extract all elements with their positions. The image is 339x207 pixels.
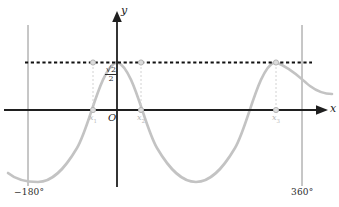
x-tick-label-right: 360°	[291, 188, 313, 197]
cosine-curve	[8, 62, 332, 182]
point-label-x3: x3	[272, 114, 280, 124]
graph-canvas	[0, 0, 339, 207]
origin-label: O	[108, 113, 116, 123]
axis-marker-x1	[90, 107, 95, 112]
intersection-marker-x3	[273, 60, 278, 65]
point-label-x1: x1	[89, 114, 97, 124]
intersection-marker-x1	[90, 60, 95, 65]
level-value-label: √2 2	[101, 66, 121, 84]
point-label-x2-sub: 2	[142, 118, 146, 124]
intersection-marker-x2	[138, 60, 143, 65]
axis-marker-x2	[138, 107, 143, 112]
x-axis-label: x	[330, 103, 336, 114]
axis-marker-x3	[273, 107, 278, 112]
point-label-x3-sub: 3	[277, 118, 281, 124]
point-label-x1-sub: 1	[94, 118, 98, 124]
cosine-graph-figure: y x O √2 2 x1 x2 x3 −180° 360°	[0, 0, 339, 207]
x-axis-arrow-icon	[316, 105, 328, 115]
point-label-x2: x2	[137, 114, 145, 124]
y-axis-label: y	[121, 5, 127, 16]
level-denominator: 2	[105, 75, 117, 83]
x-tick-label-left: −180°	[14, 188, 44, 197]
